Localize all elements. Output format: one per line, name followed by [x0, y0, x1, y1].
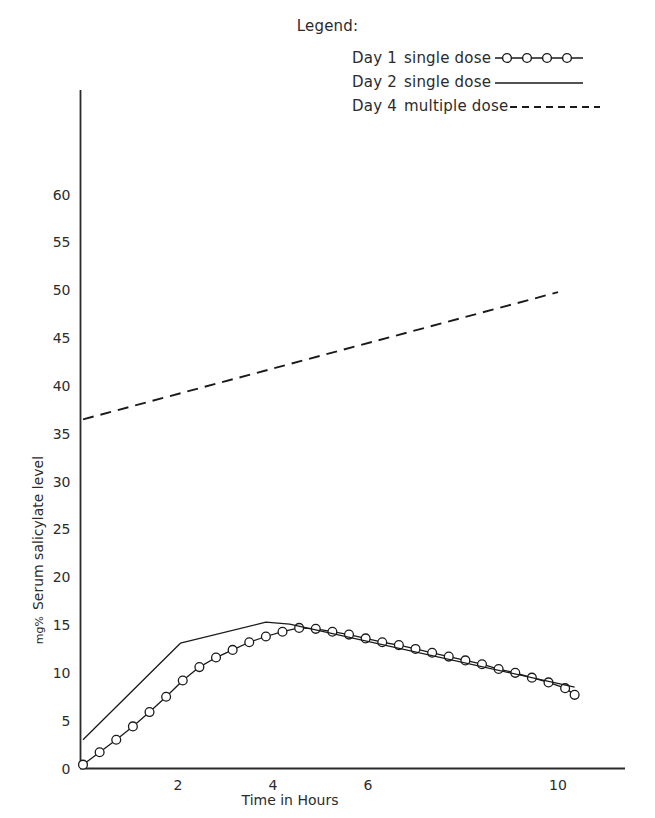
y-axis-title-units: mg%	[33, 616, 46, 644]
y-axis-tick-label: 0	[62, 761, 71, 777]
x-axis-tick-label: 6	[364, 777, 373, 793]
legend-item-day2: Day 2 single dose	[352, 70, 602, 94]
series-3	[83, 292, 558, 419]
legend-sample-day2-solid-line	[493, 75, 585, 89]
plot-area: 051015202530354045505560 24610 Serum sal…	[0, 0, 655, 818]
y-axis-tick-label: 55	[53, 234, 71, 250]
legend-sample-day4-dashed-line	[510, 99, 602, 113]
data-point-marker	[228, 645, 237, 654]
y-axis-tick-label: 40	[53, 378, 71, 394]
y-axis-tick-label: 30	[53, 474, 71, 490]
legend-block: Day 1 single dose Day 2 single dose	[352, 46, 602, 118]
series-line	[83, 622, 575, 740]
chart-figure: Legend: Day 1 single dose Day 2 single d…	[0, 0, 655, 818]
data-point-marker	[95, 748, 104, 757]
legend-heading: Legend:	[297, 17, 359, 35]
y-axis-tick-label: 25	[53, 521, 71, 537]
data-point-marker	[128, 722, 137, 731]
y-axis-tick-label: 20	[53, 569, 71, 585]
series-line	[83, 292, 558, 419]
x-axis-tick-labels: 24610	[174, 777, 567, 793]
data-point-marker	[145, 708, 154, 717]
y-axis-tick-label: 60	[53, 187, 71, 203]
y-axis-tick-label: 35	[53, 426, 71, 442]
series-1	[79, 623, 579, 769]
legend-item-day4-description: multiple dose	[404, 97, 508, 115]
data-point-marker	[112, 735, 121, 744]
y-axis-tick-label: 50	[53, 282, 71, 298]
x-axis-title: Time in Hours	[241, 792, 339, 808]
legend-item-day1: Day 1 single dose	[352, 46, 602, 70]
data-point-marker	[245, 638, 254, 647]
y-axis-tick-labels: 051015202530354045505560	[53, 187, 71, 777]
legend-item-day1-day: Day 1	[352, 49, 404, 67]
legend-title-container: Legend:	[0, 16, 655, 35]
data-point-marker	[261, 632, 270, 641]
x-axis-tick-label: 4	[269, 777, 278, 793]
legend-item-day1-description: single dose	[404, 49, 491, 67]
data-point-marker	[295, 623, 304, 632]
y-axis-tick-label: 15	[53, 617, 71, 633]
y-axis-tick-label: 5	[62, 713, 71, 729]
data-series-layer	[79, 292, 579, 769]
series-line	[83, 628, 575, 765]
data-point-marker	[278, 627, 287, 636]
data-point-marker	[212, 653, 221, 662]
x-axis-tick-label: 10	[549, 777, 567, 793]
data-point-marker	[178, 676, 187, 685]
y-axis-tick-label: 45	[53, 330, 71, 346]
data-point-marker	[162, 692, 171, 701]
data-point-marker	[195, 663, 204, 672]
y-axis-title-text: Serum salicylate level	[30, 456, 46, 610]
legend-item-day2-day: Day 2	[352, 73, 404, 91]
legend-item-day2-description: single dose	[404, 73, 491, 91]
series-2	[83, 622, 575, 740]
legend-item-day4-day: Day 4	[352, 97, 404, 115]
x-axis-tick-label: 2	[174, 777, 183, 793]
y-axis-title: Serum salicylate level mg%	[30, 456, 46, 644]
data-point-marker	[79, 760, 88, 769]
legend-item-day4: Day 4 multiple dose	[352, 94, 602, 118]
data-point-marker	[570, 690, 579, 699]
legend-sample-day1-marker-line	[493, 51, 585, 65]
y-axis-tick-label: 10	[53, 665, 71, 681]
